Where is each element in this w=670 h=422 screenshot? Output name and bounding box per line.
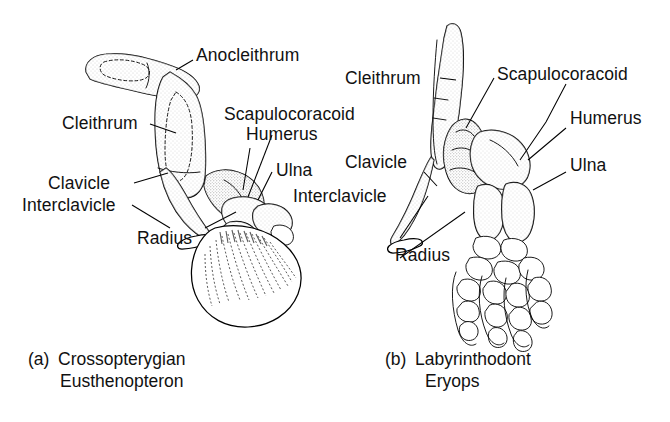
label-interclavicle-b: Interclavicle	[293, 186, 387, 206]
label-humerus-b: Humerus	[570, 108, 642, 128]
ulna-bone	[502, 182, 535, 242]
label-cleithrum-b: Cleithrum	[345, 68, 421, 88]
label-clavicle-a: Clavicle	[48, 173, 110, 193]
comparative-anatomy-figure: Anocleithrum Cleithrum Scapulocoracoid H…	[0, 0, 670, 422]
caption-letter-a: (a)	[28, 348, 58, 370]
label-cleithrum-a: Cleithrum	[62, 113, 138, 133]
caption-group-a: Crossopterygian	[58, 348, 185, 370]
label-ulna-a: Ulna	[276, 160, 312, 180]
panel-a-drawing	[86, 54, 301, 327]
caption-group-b: Labyrinthodont	[415, 348, 531, 370]
label-anocleithrum-a: Anocleithrum	[196, 45, 299, 65]
label-clavicle-b: Clavicle	[345, 152, 407, 172]
caption-panel-b: (b)Labyrinthodont	[385, 348, 531, 370]
carpal-bones	[466, 236, 544, 284]
label-interclavicle-a: Interclavicle	[22, 195, 116, 215]
caption-letter-b: (b)	[385, 348, 415, 370]
label-ulna-b: Ulna	[570, 155, 606, 175]
label-scapulocoracoid-a: Scapulocoracoid	[224, 104, 355, 124]
radius-bone	[474, 184, 505, 240]
label-radius-b: Radius	[395, 245, 450, 265]
caption-genus-b: Eryops	[425, 370, 479, 392]
label-humerus-a: Humerus	[246, 124, 318, 144]
label-scapulocoracoid-b: Scapulocoracoid	[497, 64, 628, 84]
caption-genus-a: Eusthenopteron	[60, 370, 184, 392]
caption-panel-a: (a)Crossopterygian	[28, 348, 185, 370]
label-radius-a: Radius	[137, 228, 192, 248]
